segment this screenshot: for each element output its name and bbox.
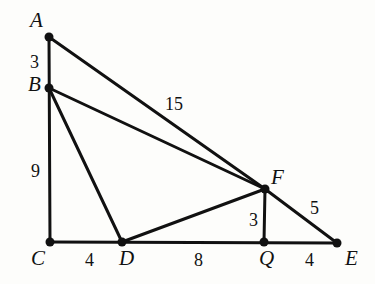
geometry-figure: A B C D Q E F 3 9 15 5 3 4 8 4 — [0, 0, 375, 284]
length-label-FE: 5 — [310, 199, 319, 217]
point-label-C: C — [31, 248, 45, 269]
segment-C-E — [50, 242, 337, 243]
length-label-DQ: 8 — [194, 251, 203, 269]
length-label-FQ: 3 — [249, 211, 258, 229]
vertex-dot-C — [46, 238, 55, 247]
vertex-dot-A — [45, 33, 54, 42]
segment-A-F — [49, 37, 265, 189]
segment-A-C — [49, 37, 50, 242]
vertex-dot-F — [261, 185, 270, 194]
segment-group — [49, 37, 337, 243]
length-label-QE: 4 — [305, 251, 314, 269]
length-label-AF: 15 — [165, 95, 183, 113]
point-label-D: D — [119, 248, 134, 269]
point-label-F: F — [271, 167, 284, 188]
geometry-canvas — [0, 0, 375, 284]
vertex-dot-B — [45, 84, 54, 93]
segment-F-E — [265, 189, 337, 243]
point-label-E: E — [345, 248, 358, 269]
vertex-dot-E — [333, 239, 342, 248]
point-label-A: A — [30, 10, 43, 31]
point-label-B: B — [28, 74, 41, 95]
length-label-AB: 3 — [30, 53, 39, 71]
segment-B-D — [49, 88, 122, 242]
length-label-CD: 4 — [85, 251, 94, 269]
segment-D-F — [122, 189, 265, 242]
length-label-BC: 9 — [31, 162, 40, 180]
segment-B-F — [49, 88, 265, 189]
segment-F-Q — [264, 189, 265, 242]
point-label-Q: Q — [259, 248, 274, 269]
